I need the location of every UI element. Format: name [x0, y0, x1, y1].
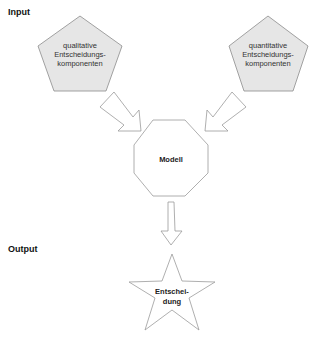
quantitative-line-3: komponenten — [245, 59, 290, 68]
quantitative-components-node: quantitative Entscheidungs- komponenten — [229, 16, 308, 91]
arrow-quantitative-to-model — [205, 92, 246, 131]
model-label: Modell — [159, 155, 183, 164]
qualitative-components-node: qualitative Entscheidungs- komponenten — [38, 16, 122, 91]
decision-model-diagram: Input Output qualitative Entscheidungs- … — [0, 0, 310, 339]
qualitative-line-1: qualitative — [63, 41, 97, 50]
decision-line-1: Entschei- — [155, 287, 189, 296]
qualitative-line-2: Entscheidungs- — [54, 50, 106, 59]
output-section-label: Output — [8, 244, 38, 254]
decision-node: Entschei- dung — [129, 254, 215, 330]
arrow-model-to-decision — [161, 202, 182, 245]
decision-line-2: dung — [163, 297, 182, 306]
qualitative-line-3: komponenten — [57, 59, 102, 68]
arrow-qualitative-to-model — [100, 92, 141, 131]
quantitative-line-2: Entscheidungs- — [242, 50, 294, 59]
model-node: Modell — [134, 120, 208, 196]
quantitative-line-1: quantitative — [249, 41, 287, 50]
input-section-label: Input — [8, 7, 30, 17]
